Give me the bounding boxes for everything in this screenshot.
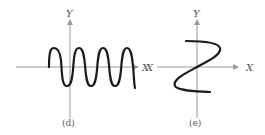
y-axis-label-e: Y <box>193 8 201 19</box>
figure-e: X Y X (e) <box>145 8 254 128</box>
x-axis-right-label-e: X <box>245 62 254 73</box>
caption-e: (e) <box>189 118 201 128</box>
y-axis-label-d: Y <box>66 8 74 19</box>
x-axis-left-label-e: X <box>145 62 154 73</box>
figure-canvas: Y X (d) X Y X (e) <box>0 0 265 135</box>
figure-d: Y X (d) <box>16 8 150 128</box>
sine-wave-curve <box>49 48 135 88</box>
caption-d: (d) <box>62 118 75 128</box>
